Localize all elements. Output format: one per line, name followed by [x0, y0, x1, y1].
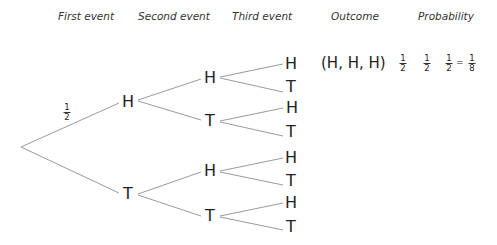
fraction-numerator: 1	[400, 54, 405, 63]
node-first-tails: T	[123, 186, 133, 202]
probability-factor-3: 1 2	[446, 54, 453, 73]
fraction-numerator: 1	[446, 54, 451, 63]
node-third-hht: T	[286, 79, 296, 95]
probability-result: 1 8	[469, 54, 476, 73]
equals-sign: =	[456, 57, 464, 67]
fraction-numerator: 1	[469, 54, 474, 63]
fraction-denominator: 2	[64, 113, 69, 122]
node-second-hh: H	[204, 70, 216, 86]
fraction-denominator: 2	[400, 64, 405, 73]
branch-probability-label: 1 2	[64, 103, 71, 122]
node-second-th: H	[204, 163, 216, 179]
fraction-denominator: 8	[469, 64, 474, 73]
probability-factor-1: 1 2	[400, 54, 407, 73]
fraction-numerator: 1	[424, 54, 429, 63]
node-second-tt: T	[205, 208, 215, 224]
outcome-hhh: (H, H, H)	[321, 54, 386, 72]
node-third-tht: T	[286, 173, 296, 189]
node-third-htt: T	[286, 124, 296, 140]
fraction-numerator: 1	[64, 103, 69, 112]
node-second-ht: T	[205, 113, 215, 129]
node-first-heads: H	[122, 94, 134, 110]
fraction-denominator: 2	[424, 64, 429, 73]
node-third-thh: H	[285, 150, 297, 166]
node-third-tth: H	[285, 195, 297, 211]
fraction-denominator: 2	[446, 64, 451, 73]
tree-branches	[0, 0, 497, 245]
probability-factor-2: 1 2	[424, 54, 431, 73]
node-third-ttt: T	[286, 219, 296, 235]
node-third-hth: H	[286, 100, 298, 116]
node-third-hhh: H	[285, 56, 297, 72]
